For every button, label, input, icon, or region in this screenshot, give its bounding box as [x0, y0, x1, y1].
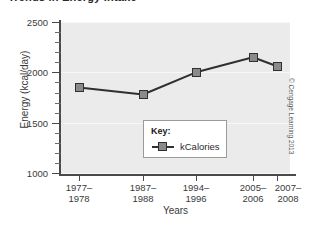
data-point-1987-1988: [139, 90, 148, 99]
copyright-notice: © Cengage Learning 2013: [288, 78, 295, 188]
legend-label-kcalories: kCalories: [180, 141, 220, 152]
data-point-2005-2006: [249, 53, 258, 62]
legend-box: Key: kCalories: [143, 120, 227, 158]
data-point-1977-1978: [75, 83, 84, 92]
series-line-kcalories: [0, 0, 322, 226]
data-point-2007-2008: [273, 62, 282, 71]
legend-title: Key:: [151, 126, 171, 136]
data-point-1994-1996: [192, 68, 201, 77]
chart-figure: Trends in Energy Intake 2500 2000 1500 1…: [0, 0, 322, 226]
legend-marker-swatch: [158, 142, 167, 151]
